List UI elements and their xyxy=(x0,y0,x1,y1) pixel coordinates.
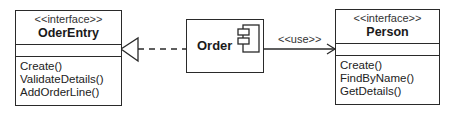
operations-divider xyxy=(336,55,439,56)
operation: GetDetails() xyxy=(340,85,414,98)
interface-person[interactable]: <<interface>> Person Create() FindByName… xyxy=(335,9,440,105)
operations-list: Create() ValidateDetails() AddOrderLine(… xyxy=(20,60,104,99)
realization-arrow xyxy=(121,38,186,61)
operation: AddOrderLine() xyxy=(20,86,104,99)
attributes-divider xyxy=(16,44,121,45)
component-icon xyxy=(235,24,261,54)
operation: Create() xyxy=(340,59,414,72)
use-label: <<use>> xyxy=(278,33,321,45)
class-header: <<interface>> Person xyxy=(336,10,439,40)
class-header: <<interface>> OderEntry xyxy=(16,11,121,41)
operations-divider xyxy=(16,56,121,57)
stereotype-label: <<interface>> xyxy=(336,12,439,25)
operation: FindByName() xyxy=(340,72,414,85)
class-name: OderEntry xyxy=(16,26,121,41)
class-name: Person xyxy=(336,25,439,40)
attributes-divider xyxy=(336,43,439,44)
component-order[interactable]: Order xyxy=(186,19,264,73)
use-dependency-arrow xyxy=(264,44,335,54)
operations-list: Create() FindByName() GetDetails() xyxy=(340,59,414,98)
operation: Create() xyxy=(20,60,104,73)
interface-oderentry[interactable]: <<interface>> OderEntry Create() Validat… xyxy=(15,10,122,106)
stereotype-label: <<interface>> xyxy=(16,13,121,26)
operation: ValidateDetails() xyxy=(20,73,104,86)
component-name: Order xyxy=(197,38,232,53)
